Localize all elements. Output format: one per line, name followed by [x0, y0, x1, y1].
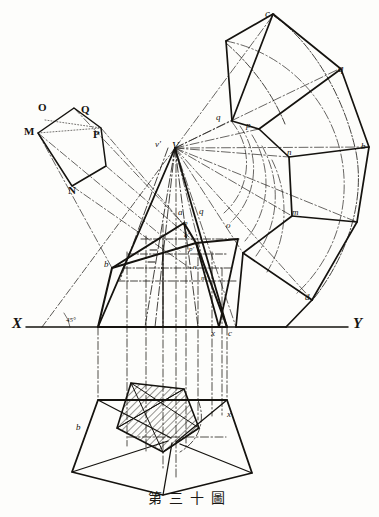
- forty-five-degree-ray: [42, 148, 175, 327]
- figure-caption: 第三十圖: [0, 487, 379, 507]
- caption-char-1: 第: [148, 487, 169, 507]
- elevation-label-x: x: [211, 329, 215, 338]
- development-cut-curve: [226, 16, 358, 302]
- pentagon-vertex-q: Q: [81, 104, 90, 115]
- figure-drawing: [0, 0, 379, 517]
- elevation-label-p-prime: p': [189, 246, 194, 253]
- development-outline: [226, 14, 369, 327]
- development-label-m: m: [292, 208, 299, 217]
- apex-label-v-prime: v': [155, 140, 161, 149]
- development-label-p: p: [246, 121, 251, 130]
- caption-char-3: 十: [190, 487, 211, 507]
- elevation-label-b: b: [104, 260, 109, 269]
- angle-note-45: 45°: [66, 317, 76, 324]
- elevation-label-n-prime: n': [193, 264, 198, 271]
- apex-label-v: V: [172, 140, 179, 151]
- plan-label-b: b: [76, 423, 81, 432]
- elevation-label-a: a: [178, 208, 183, 217]
- development-label-q: q: [338, 63, 344, 74]
- development-label-q-inner: q: [216, 113, 221, 122]
- pentagon-vertex-n: N: [68, 185, 76, 196]
- axis-label-x: X: [12, 316, 22, 331]
- development-label-d: d: [305, 293, 310, 302]
- elevation-label-p: p: [184, 220, 188, 227]
- pentagon-vertex-m: M: [24, 126, 34, 137]
- development-label-c: c: [265, 8, 270, 19]
- development-label-n: n: [287, 148, 292, 157]
- elevation-label-q-prime: q': [184, 232, 189, 239]
- elevation-label-q: q: [199, 207, 204, 216]
- pentagon-vertex-p: P: [93, 129, 100, 140]
- elevation-label-o: o: [226, 221, 231, 230]
- pentagon-vertex-o: O: [38, 102, 47, 113]
- true-shape-pentagon-outline: [38, 108, 106, 186]
- caption-char-4: 圖: [211, 487, 232, 507]
- plan-label-x: x: [227, 410, 231, 419]
- axis-label-y: Y: [353, 316, 362, 331]
- caption-char-2: 三: [169, 487, 190, 507]
- elevation-label-c: c: [228, 329, 232, 338]
- elevation-label-m-prime: m': [201, 275, 208, 282]
- projection-rays-pentagon: [38, 108, 196, 268]
- development-label-b: b: [361, 142, 366, 151]
